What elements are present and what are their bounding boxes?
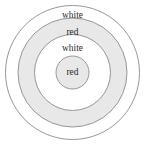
ring-label-second: red — [67, 27, 79, 37]
ring-label-third: white — [62, 43, 83, 53]
concentric-circles-canvas: white red white red — [0, 0, 145, 145]
ring-label-outer: white — [62, 10, 83, 20]
ring-label-center: red — [67, 67, 79, 77]
concentric-circles-diagram: white red white red — [0, 0, 145, 145]
